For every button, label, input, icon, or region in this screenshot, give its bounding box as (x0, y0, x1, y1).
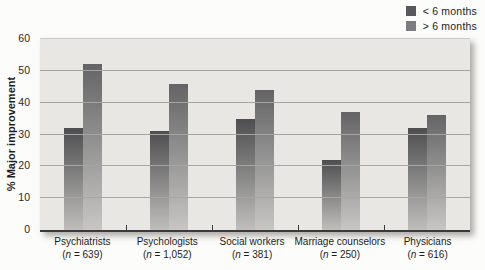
bar-6-months-marriage-counselors (322, 160, 341, 230)
equals-sign: = (416, 249, 427, 260)
gridline (40, 197, 470, 198)
legend-item-label: > 6 months (423, 20, 477, 32)
category-name: Social workers (210, 235, 295, 248)
x-label-psychologists: Psychologists(n = 1,052) (125, 235, 210, 261)
bar-group-psychologists (126, 39, 212, 230)
bar-6-months-psychologists (150, 131, 169, 230)
x-label-physicians: Physicians(n = 616) (385, 235, 470, 261)
chart-legend: < 6 months> 6 months (406, 3, 477, 33)
x-label-marriage-counselors: Marriage counselors(n = 250) (295, 235, 386, 261)
legend-swatch-icon (406, 6, 416, 16)
x-label-psychiatrists: Psychiatrists(n = 639) (40, 235, 125, 261)
gridline (40, 70, 470, 71)
bar-6-months-psychiatrists (64, 128, 83, 230)
x-label-social-workers: Social workers(n = 381) (210, 235, 295, 261)
y-axis-ticks: 0102030405060 (0, 38, 34, 229)
x-axis-boundary-tick (212, 225, 213, 230)
y-tick-label: 10 (18, 191, 30, 203)
bar-6-months-social-workers (236, 119, 255, 230)
legend-item-6-months: > 6 months (406, 18, 477, 33)
n-value: 616 (428, 249, 445, 260)
bar-6-months-psychiatrists (83, 64, 102, 230)
x-axis-boundary-tick (384, 225, 385, 230)
legend-item-6-months: < 6 months (406, 3, 477, 18)
bar-6-months-psychologists (169, 84, 188, 230)
equals-sign: = (71, 249, 82, 260)
equals-sign: = (241, 249, 252, 260)
paren-close: ) (357, 249, 360, 260)
gridline (40, 102, 470, 103)
n-value: 250 (340, 249, 357, 260)
category-n-count: (n = 616) (385, 248, 470, 261)
gridline (40, 134, 470, 135)
bar-group-social-workers (212, 39, 298, 230)
legend-swatch-icon (406, 21, 416, 31)
bar-6-months-marriage-counselors (341, 112, 360, 230)
y-tick-label: 40 (18, 96, 30, 108)
category-name: Psychiatrists (40, 235, 125, 248)
category-n-count: (n = 1,052) (125, 248, 210, 261)
n-value: 381 (252, 249, 269, 260)
bar-group-marriage-counselors (298, 39, 384, 230)
legend-item-label: < 6 months (423, 5, 477, 17)
x-axis-boundary-tick (298, 225, 299, 230)
bar-6-months-physicians (408, 128, 427, 230)
bar-chart-figure: < 6 months> 6 months % Major improvement… (0, 0, 485, 270)
paren-close: ) (444, 249, 447, 260)
category-n-count: (n = 250) (295, 248, 386, 261)
category-n-count: (n = 639) (40, 248, 125, 261)
paren-close: ) (188, 249, 191, 260)
bar-groups (40, 39, 470, 230)
x-axis-labels: Psychiatrists(n = 639)Psychologists(n = … (40, 235, 470, 261)
category-n-count: (n = 381) (210, 248, 295, 261)
n-value: 639 (83, 249, 100, 260)
x-axis-boundary-tick (126, 225, 127, 230)
n-value: 1,052 (163, 249, 188, 260)
bar-6-months-social-workers (255, 90, 274, 230)
y-tick-label: 20 (18, 159, 30, 171)
bar-group-physicians (384, 39, 470, 230)
category-name: Physicians (385, 235, 470, 248)
y-tick-label: 60 (18, 32, 30, 44)
plot-area (40, 38, 470, 232)
y-tick-label: 30 (18, 128, 30, 140)
y-tick-label: 0 (24, 223, 30, 235)
gridline (40, 165, 470, 166)
paren-close: ) (99, 249, 102, 260)
equals-sign: = (329, 249, 340, 260)
paren-close: ) (269, 249, 272, 260)
category-name: Marriage counselors (295, 235, 386, 248)
equals-sign: = (152, 249, 163, 260)
y-tick-label: 50 (18, 64, 30, 76)
bar-group-psychiatrists (40, 39, 126, 230)
category-name: Psychologists (125, 235, 210, 248)
